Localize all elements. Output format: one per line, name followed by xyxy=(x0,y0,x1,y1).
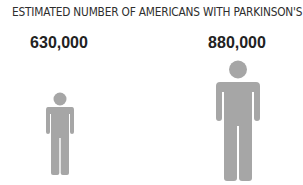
chart-title: ESTIMATED NUMBER OF AMERICANS WITH PARKI… xyxy=(12,5,291,19)
value-label-630000: 630,000 xyxy=(30,34,88,52)
person-icon xyxy=(45,92,75,176)
value-label-880000: 880,000 xyxy=(208,34,266,52)
person-icon xyxy=(215,60,261,182)
